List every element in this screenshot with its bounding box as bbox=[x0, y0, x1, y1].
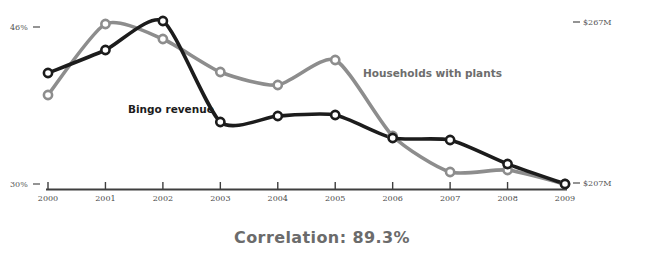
households-with-plants-series-label: Households with plants bbox=[363, 67, 502, 79]
right-bottom-axis-label: $207M bbox=[583, 179, 612, 188]
x-axis-tick-label: 2000 bbox=[38, 194, 58, 203]
data-point-marker bbox=[216, 118, 224, 126]
right-axis-labels: $267M $207M bbox=[573, 18, 612, 188]
x-axis-ticks bbox=[48, 182, 565, 189]
left-top-axis-label: 46% bbox=[10, 23, 28, 32]
data-point-marker bbox=[44, 69, 52, 77]
x-axis bbox=[46, 182, 567, 190]
right-top-axis-label: $267M bbox=[583, 18, 612, 27]
data-point-marker bbox=[216, 68, 224, 76]
series-layer bbox=[48, 20, 565, 184]
x-axis-tick-label: 2003 bbox=[210, 194, 230, 203]
bingo-revenue-series-label: Bingo revenue bbox=[128, 103, 214, 115]
correlation-label: Correlation: 89.3% bbox=[234, 228, 410, 247]
series-line bbox=[48, 23, 565, 184]
data-point-marker bbox=[274, 81, 282, 89]
left-axis-labels: 46% 30% bbox=[10, 23, 40, 189]
data-point-marker bbox=[101, 46, 109, 54]
left-bottom-axis-label: 30% bbox=[10, 180, 28, 189]
data-point-marker bbox=[44, 91, 52, 99]
data-point-marker bbox=[389, 134, 397, 142]
correlation-chart: 46% 30% $267M $207M 20002001200220032004… bbox=[0, 0, 645, 254]
series-line bbox=[48, 20, 565, 184]
chart-svg: 46% 30% $267M $207M 20002001200220032004… bbox=[0, 0, 645, 254]
data-point-marker bbox=[561, 180, 569, 188]
x-axis-tick-label: 2008 bbox=[497, 194, 517, 203]
x-axis-tick-label: 2007 bbox=[440, 194, 460, 203]
x-axis-tick-label: 2005 bbox=[325, 194, 345, 203]
data-point-marker bbox=[503, 160, 511, 168]
x-axis-tick-label: 2001 bbox=[95, 194, 115, 203]
x-axis-tick-label: 2002 bbox=[153, 194, 173, 203]
data-point-marker bbox=[274, 112, 282, 120]
x-axis-tick-labels: 2000200120022003200420052006200720082009 bbox=[38, 194, 575, 203]
series-annotations: Bingo revenue Households with plants bbox=[128, 67, 502, 115]
data-point-marker bbox=[331, 56, 339, 64]
data-point-markers bbox=[44, 17, 569, 188]
data-point-marker bbox=[159, 35, 167, 43]
data-point-marker bbox=[331, 111, 339, 119]
x-axis-tick-label: 2009 bbox=[555, 194, 575, 203]
x-axis-tick-label: 2006 bbox=[382, 194, 402, 203]
data-point-marker bbox=[446, 136, 454, 144]
data-point-marker bbox=[446, 168, 454, 176]
data-point-marker bbox=[159, 17, 167, 25]
data-point-marker bbox=[101, 20, 109, 28]
x-axis-tick-label: 2004 bbox=[268, 194, 288, 203]
